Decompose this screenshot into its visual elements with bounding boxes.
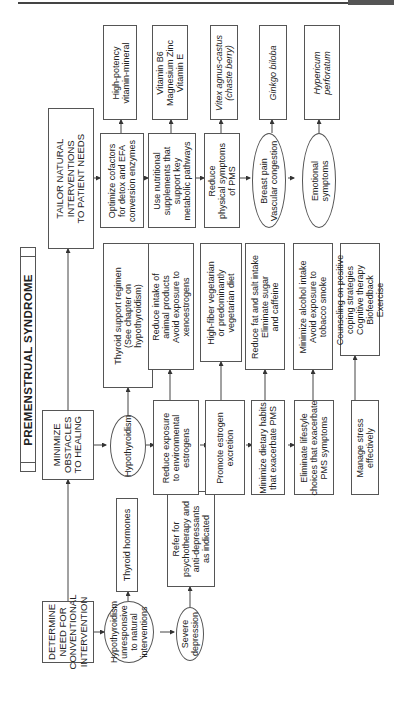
node-minimize-alcohol: Minimize alcohol intake Avoid exposure t… xyxy=(293,243,333,370)
node-promote-excretion: Promote estrogen excretion xyxy=(205,400,245,495)
node-severe-depression: Severe depression xyxy=(176,607,204,661)
node-optimize-cofactors: Optimize cofactors for detox and EFA con… xyxy=(100,133,144,228)
node-thyroid-hormones: Thyroid hormones xyxy=(116,498,138,592)
stage-tailor: TAILOR NATURAL INTERVENTIONS TO PATIENT … xyxy=(48,108,94,249)
node-refer-psychotherapy: Refer for psychotherapy and anti-depress… xyxy=(167,491,215,587)
node-eliminate-lifestyle: Eliminate lifestyle choices that exacerb… xyxy=(294,400,334,495)
stage-minimize: MINIMIZE OBSTACLES TO HEALING xyxy=(42,410,94,480)
node-high-fiber-diet: High-fiber vegetarian or predominantly v… xyxy=(200,243,242,362)
textbook-page: PREMENSTRUAL SYNDROME DETERMINE NEED FOR… xyxy=(0,0,414,723)
node-thyroid-support-regimen: Thyroid support regimen (See chapter on … xyxy=(103,243,153,388)
node-breast-pain: Breast pain Vascular congestion xyxy=(252,133,286,228)
node-emotional-symptoms: Emotional symptoms xyxy=(302,133,336,228)
node-minimize-dietary-habits: Minimize dietary habits that exacerbate … xyxy=(251,400,285,495)
node-hypericum: Hypericum perforatum xyxy=(304,25,340,120)
node-ginkgo: Ginkgo biloba xyxy=(259,25,287,120)
node-reduce-physical-symptoms: Reduce physical symptoms of PMS xyxy=(204,133,240,228)
node-use-nutritional-supplements: Use nutritional supplements that support… xyxy=(148,133,196,228)
node-reduce-exposure: Reduce exposure to environmental estroge… xyxy=(153,400,199,495)
node-vitamins-minerals: Vitamin B6 Magnesium Zinc Vitamin E xyxy=(152,25,188,120)
node-reduce-intake: Reduce intake of animal products Avoid e… xyxy=(148,243,194,370)
node-hypothyroidism: Hypothyroidism xyxy=(110,415,146,477)
node-reduce-fat-salt: Reduce fat and salt intake Eliminate sug… xyxy=(245,243,285,370)
diagram-title: PREMENSTRUAL SYNDROME xyxy=(20,247,36,472)
node-vitex: Vitex agnus-castus (chaste berry) xyxy=(210,25,238,120)
node-manage-stress: Manage stress effectively xyxy=(351,400,379,495)
node-high-potency-vitamin: High-potency vitamin-mineral xyxy=(103,25,137,120)
node-counseling: Counseling on positive coping strategies… xyxy=(340,243,380,356)
stage-determine: DETERMINE NEED FOR CONVENTIONAL INTERVEN… xyxy=(42,601,94,663)
node-hypothyroidism-unresponsive: Hypothyroidism unresponsive to natural i… xyxy=(104,601,154,663)
